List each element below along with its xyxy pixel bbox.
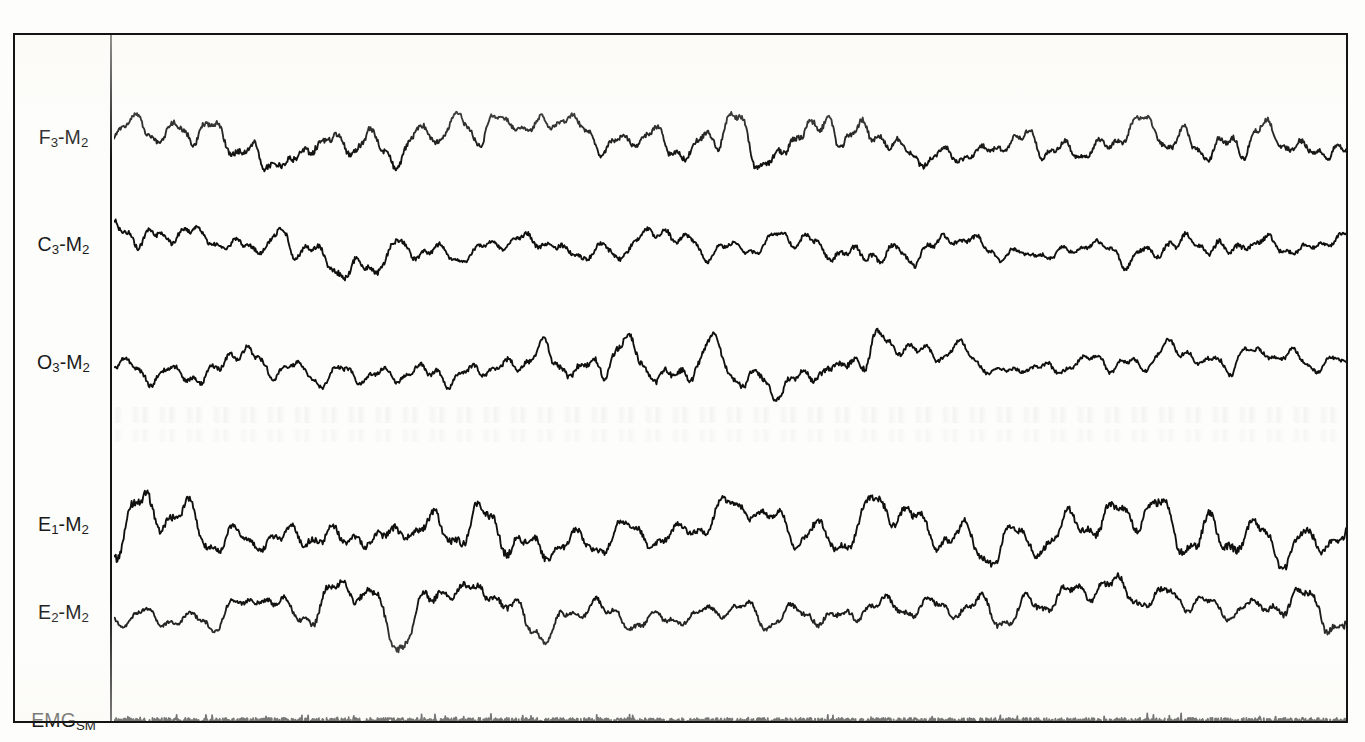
trace-left-eog (114, 490, 1346, 569)
channel-label-occipital-eeg: O3-M2 (15, 353, 112, 373)
trace-occipital-eeg (114, 329, 1346, 401)
signal-trace-area (114, 35, 1346, 721)
channel-label-right-eog: E2-M2 (15, 603, 112, 623)
channel-label-submental-emg: EMGSM (15, 711, 112, 731)
channel-label-central-eeg: C3-M2 (15, 235, 112, 255)
trace-submental-emg (114, 713, 1346, 721)
polysomnogram-figure: F3-M2C3-M2O3-M2E1-M2E2-M2EMGSM (0, 0, 1365, 742)
channel-label-left-eog: E1-M2 (15, 515, 112, 535)
waveform-canvas (114, 35, 1346, 721)
trace-frontal-eeg (114, 112, 1346, 172)
channel-label-frontal-eeg: F3-M2 (15, 128, 112, 148)
recording-frame: F3-M2C3-M2O3-M2E1-M2E2-M2EMGSM (13, 33, 1348, 723)
trace-central-eeg (114, 219, 1346, 280)
trace-right-eog (114, 573, 1346, 652)
channel-label-column: F3-M2C3-M2O3-M2E1-M2E2-M2EMGSM (15, 35, 112, 721)
